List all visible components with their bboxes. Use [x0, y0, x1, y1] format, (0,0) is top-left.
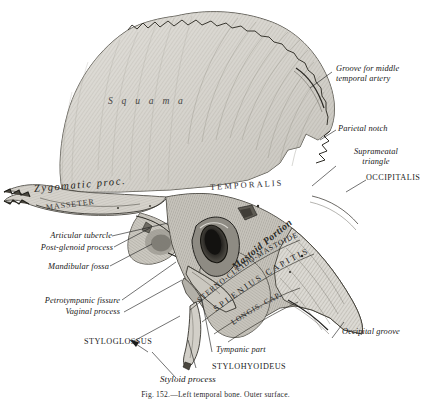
label-petrotympanic-fissure: Petrotympanic fissure — [0, 296, 120, 306]
label-suprameatal-triangle: Suprameatal triangle — [338, 147, 414, 166]
label-mandibular-fossa: Mandibular fossa — [6, 262, 109, 272]
label-stylohyoideus: STYLOHYOIDEUS — [212, 362, 286, 371]
label-occipital-groove: Occipital groove — [342, 327, 400, 337]
label-styloglossus: STYLOGLOSSUS — [84, 337, 152, 346]
label-groove-for-middle-temporal-artery: Groove for middle temporal artery — [336, 64, 430, 83]
label-post-glenoid-process: Post-glenoid process — [0, 243, 113, 253]
label-articular-tubercle: Articular tubercle — [8, 231, 112, 241]
label-line-1: Groove for middle — [336, 64, 399, 73]
figure-caption: Fig. 152.—Left temporal bone. Outer surf… — [0, 390, 431, 399]
label-styloid-process: Styloid process — [160, 375, 216, 385]
label-vaginal-process: Vaginal process — [0, 307, 120, 317]
in-bone-label-squama: S q u a m a — [108, 95, 186, 106]
label-line-2: triangle — [362, 157, 389, 166]
figure-page: STERNO-CLEIDO-MASTOIDEUS SPLENIUS CAPITI… — [0, 0, 431, 400]
label-occipitalis: OCCIPITALIS — [366, 173, 420, 182]
label-line-1: Suprameatal — [354, 147, 398, 156]
label-parietal-notch: Parietal notch — [338, 124, 388, 134]
label-tympanic-part: Tympanic part — [216, 345, 266, 355]
label-line-2: temporal artery — [336, 74, 390, 83]
